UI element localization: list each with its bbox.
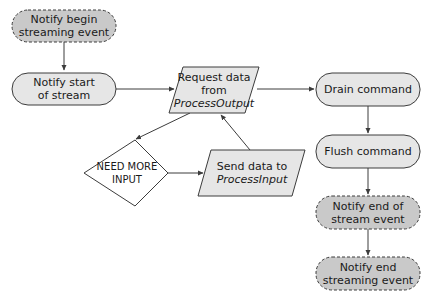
edge-request-to-decision <box>136 113 190 139</box>
node-need-more-input-diamond <box>84 140 168 206</box>
edge-send-to-request <box>221 115 250 150</box>
node-start-of-stream <box>12 73 116 105</box>
node-flush-command <box>316 135 420 168</box>
flowchart-canvas <box>0 0 432 301</box>
node-end-of-stream-event <box>316 196 420 229</box>
node-drain-command <box>316 73 420 106</box>
node-end-streaming-event <box>316 257 420 290</box>
node-send-data-parallelogram <box>198 150 305 196</box>
node-request-data-parallelogram <box>169 67 259 113</box>
node-begin-streaming-event <box>12 10 116 42</box>
